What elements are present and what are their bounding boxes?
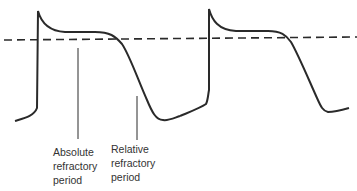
- absolute-label-line3: period: [53, 173, 97, 187]
- action-potential-trace-1: [15, 11, 180, 121]
- relative-label-line2: refractory: [111, 156, 155, 170]
- action-potential-trace-2: [180, 9, 349, 116]
- refractory-period-diagram: Absolute refractory period Relative refr…: [0, 0, 357, 191]
- relative-label-line1: Relative: [111, 142, 155, 156]
- absolute-label-line2: refractory: [53, 159, 97, 173]
- relative-label-line3: period: [111, 170, 155, 184]
- absolute-refractory-period-label: Absolute refractory period: [53, 145, 97, 187]
- threshold-dashed-line: [4, 37, 357, 40]
- absolute-label-line1: Absolute: [53, 145, 97, 159]
- relative-refractory-period-label: Relative refractory period: [111, 142, 155, 184]
